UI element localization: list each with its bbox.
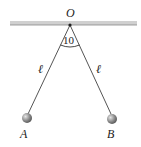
ball-b-label: B [107,127,115,141]
ball-a-label: A [19,127,28,141]
string-b [70,25,111,114]
ceiling-bar [10,21,137,25]
right-length-label: ℓ [96,62,101,76]
ball-b [107,114,117,124]
pendulum-diagram: O 10 ℓ ℓ A B [0,0,141,147]
ball-a [22,113,32,123]
pivot-label: O [66,6,75,20]
pivot-point [68,23,71,26]
angle-label: 10 [63,34,75,46]
left-length-label: ℓ [38,62,43,76]
